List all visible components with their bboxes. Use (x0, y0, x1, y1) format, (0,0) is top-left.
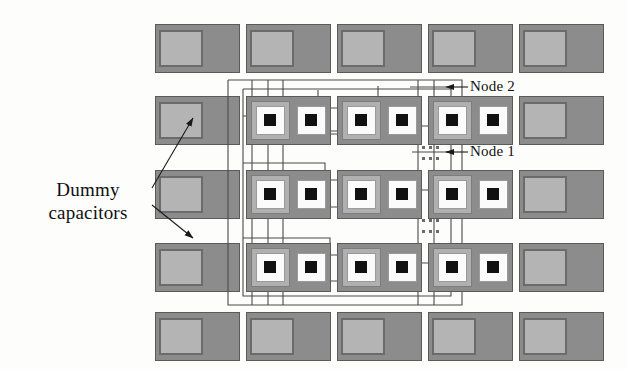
continuation-dot (422, 146, 425, 149)
active-capacitor-cell (246, 96, 330, 144)
dummy-inner-plate (160, 319, 202, 354)
cell-contact (487, 188, 499, 200)
dummy-inner-plate (342, 31, 384, 66)
active-capacitor-cell (428, 170, 512, 218)
active-capacitor-cell (337, 170, 421, 218)
cell-contact (446, 261, 458, 273)
cell-contact (355, 188, 367, 200)
dummy-capacitor (155, 96, 239, 144)
dummy-capacitor (519, 243, 603, 291)
continuation-dot (436, 146, 439, 149)
dummy-inner-plate (524, 319, 566, 354)
dummy-inner-plate (342, 319, 384, 354)
dummy-inner-plate (251, 319, 293, 354)
dummy-inner-plate (160, 103, 202, 138)
continuation-dot (422, 219, 425, 222)
dummy-capacitors-label: Dummy capacitors (24, 178, 152, 224)
continuation-dot (429, 157, 432, 160)
cell-contact (305, 188, 317, 200)
continuation-dot (429, 146, 432, 149)
cell-contact (355, 114, 367, 126)
dummy-inner-plate (433, 319, 475, 354)
dummy-capacitor (519, 24, 603, 72)
continuation-dot (436, 219, 439, 222)
dummy-capacitor (519, 312, 603, 360)
dummy-inner-plate (524, 177, 566, 212)
active-capacitor-cell (337, 243, 421, 291)
dummy-inner-plate (524, 31, 566, 66)
continuation-dot (422, 230, 425, 233)
continuation-dot (422, 157, 425, 160)
dummy-capacitor (155, 170, 239, 218)
continuation-dot (436, 157, 439, 160)
cell-contact (264, 114, 276, 126)
cell-contact (487, 261, 499, 273)
cell-contact (355, 261, 367, 273)
figure-canvas: Node 2 Node 1 Dummy capacitors (0, 0, 627, 369)
dummy-capacitor (337, 24, 421, 72)
cell-contact (487, 114, 499, 126)
dummy-capacitor (155, 24, 239, 72)
active-capacitor-cell (428, 96, 512, 144)
cell-contact (396, 114, 408, 126)
dummy-inner-plate (160, 250, 202, 285)
cell-contact (446, 188, 458, 200)
cell-contact (396, 188, 408, 200)
continuation-dot (436, 230, 439, 233)
dummy-capacitor (246, 24, 330, 72)
dummy-inner-plate (160, 31, 202, 66)
dummy-inner-plate (524, 103, 566, 138)
active-capacitor-layer (246, 96, 512, 291)
dummy-capacitor (428, 24, 512, 72)
dummy-inner-plate (433, 31, 475, 66)
dummy-capacitor (428, 312, 512, 360)
node-2-label: Node 2 (470, 78, 515, 95)
node-1-label: Node 1 (470, 143, 515, 160)
active-capacitor-cell (246, 243, 330, 291)
active-capacitor-cell (428, 243, 512, 291)
active-capacitor-cell (246, 170, 330, 218)
cell-contact (305, 114, 317, 126)
cell-contact (305, 261, 317, 273)
continuation-dot (429, 219, 432, 222)
dummy-inner-plate (160, 177, 202, 212)
cell-contact (446, 114, 458, 126)
cell-contact (264, 261, 276, 273)
cell-contact (396, 261, 408, 273)
dummy-capacitor (246, 312, 330, 360)
dummy-capacitor (155, 243, 239, 291)
dummy-capacitor (519, 170, 603, 218)
dummy-capacitor (155, 312, 239, 360)
dummy-inner-plate (524, 250, 566, 285)
continuation-dot (429, 230, 432, 233)
cell-contact (264, 188, 276, 200)
dummy-capacitor (519, 96, 603, 144)
active-capacitor-cell (337, 96, 421, 144)
dummy-capacitor (337, 312, 421, 360)
dummy-inner-plate (251, 31, 293, 66)
